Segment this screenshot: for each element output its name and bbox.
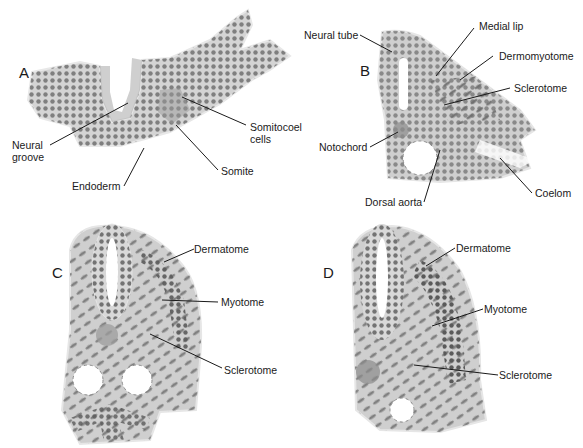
label-dermomyotome: Dermomyotome	[499, 50, 574, 62]
panel-d-illustration	[352, 224, 486, 432]
label-dermatome-d: Dermatome	[456, 242, 511, 254]
panel-letter-c: C	[52, 264, 63, 281]
panel-c-illustration	[62, 224, 201, 444]
label-medial-lip: Medial lip	[479, 20, 523, 32]
label-coelom: Coelom	[535, 187, 571, 199]
label-neural-tube: Neural tube	[304, 29, 358, 41]
label-myotome-d: Myotome	[484, 303, 527, 315]
label-endoderm: Endoderm	[72, 180, 120, 192]
panel-letter-d: D	[323, 264, 334, 281]
label-somitocoel-line1: Somitocoel	[250, 121, 302, 133]
label-neural-groove-line1: Neural	[12, 139, 43, 151]
label-neural-groove-line2: groove	[12, 151, 44, 163]
label-sclerotome-b: Sclerotome	[514, 82, 567, 94]
label-somitocoel-line2: cells	[250, 133, 271, 145]
label-somite: Somite	[221, 165, 254, 177]
panel-letter-b: B	[360, 62, 370, 79]
label-dorsal-aorta: Dorsal aorta	[365, 196, 422, 208]
panel-letter-a: A	[19, 64, 29, 81]
label-dermatome-c: Dermatome	[194, 243, 249, 255]
label-sclerotome-d: Sclerotome	[499, 369, 552, 381]
label-myotome-c: Myotome	[221, 296, 264, 308]
label-sclerotome-c: Sclerotome	[224, 364, 277, 376]
label-notochord: Notochord	[319, 141, 367, 153]
somite-development-figure	[0, 0, 583, 448]
